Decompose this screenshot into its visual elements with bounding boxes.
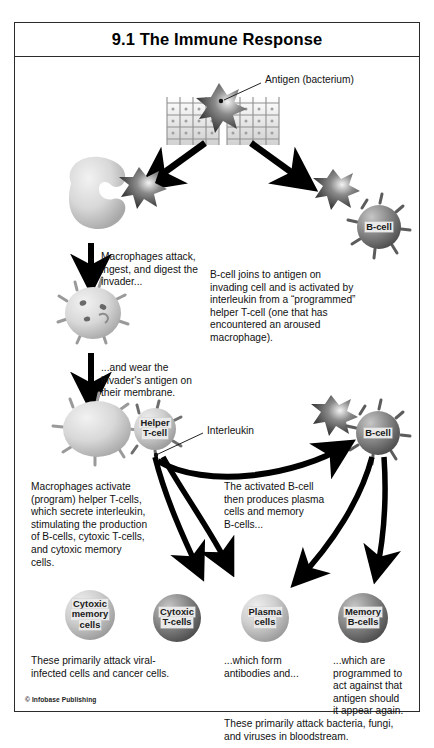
macrophage-presenting	[53, 393, 138, 465]
figure-title-bar: 9.1 The Immune Response	[15, 23, 419, 57]
antigen-bacterium-bcell-top	[313, 169, 360, 210]
helper-tcell	[132, 401, 181, 459]
macrophage-engulfing	[69, 157, 125, 229]
callout-antigen: Antigen (bacterium)	[265, 74, 354, 87]
antigen-bacterium-bcell-mid	[311, 395, 358, 436]
arrow-interleukin-to-bcell	[158, 445, 347, 477]
bcell-mid	[347, 400, 410, 464]
page-title: 9.1 The Immune Response	[112, 30, 322, 49]
cytoxic-memory-cell	[65, 590, 115, 640]
text-programmed-act: ...which are programmed to act against t…	[333, 655, 419, 718]
callout-interleukin: Interleukin	[207, 425, 254, 438]
text-form-antibodies: ...which form antibodies and...	[224, 655, 324, 680]
text-attack-bacteria: These primarily attack bacteria, fungi, …	[224, 718, 424, 743]
text-macrophages-activate: Macrophages activate (program) helper T-…	[31, 481, 181, 569]
figure-canvas: Antigen (bacterium) Interleukin Macropha…	[15, 57, 419, 711]
plasma-cell	[241, 594, 289, 642]
bcell-top	[348, 194, 410, 258]
text-wear-antigen: ...and wear the invader's antigen on the…	[101, 362, 231, 400]
text-bcell-joins: B-cell joins to antigen on invading cell…	[210, 269, 410, 345]
figure-panel: 9.1 The Immune Response	[14, 22, 420, 712]
arrow-tissue-to-bcell	[251, 143, 309, 185]
copyright-notice: © Infobase Publishing	[25, 696, 96, 703]
text-attack-viral: These primarily attack viral- infected c…	[31, 655, 206, 680]
arrow-bcell-to-memory-bcells	[376, 457, 385, 575]
memory-bcell	[338, 593, 388, 643]
cytoxic-tcell	[153, 594, 201, 642]
text-activated-bcell: The activated B-cell then produces plasm…	[224, 481, 349, 531]
